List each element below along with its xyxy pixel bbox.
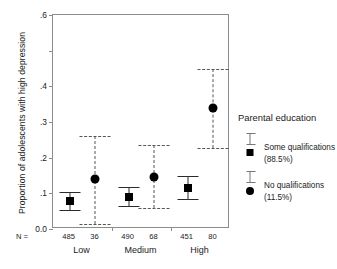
legend-item-no-qualifications[interactable]: No qualifications (11.5%) xyxy=(238,170,337,208)
legend-glyphs-no-qualifications xyxy=(242,170,258,208)
error-bar-icon xyxy=(250,171,251,182)
square-data-marker xyxy=(184,184,192,192)
plot-area: 0.0.1.2.3.4.6 xyxy=(52,14,229,228)
square-data-marker xyxy=(125,193,133,201)
legend-label-no-qualifications: No qualifications (11.5%) xyxy=(264,180,324,204)
circle-marker-icon xyxy=(246,187,254,195)
error-bar-cap-lower xyxy=(139,208,170,209)
category-label: High xyxy=(190,245,209,255)
legend-label-some-qualifications: Some qualifications (88.5%) xyxy=(264,142,335,166)
n-value: 451 xyxy=(180,232,193,241)
error-bar-cap-upper xyxy=(139,145,170,146)
category-label: Low xyxy=(73,245,90,255)
n-value: 485 xyxy=(62,232,75,241)
error-bar-cap-upper xyxy=(198,69,229,70)
error-bar-cap-lower xyxy=(80,224,111,225)
circle-data-marker xyxy=(91,175,100,184)
legend: Parental education Some qualifications (… xyxy=(238,112,337,208)
square-data-marker xyxy=(66,197,74,205)
data-point-group xyxy=(75,15,115,229)
error-bar-cap-lower xyxy=(198,148,229,149)
data-point-group xyxy=(134,15,174,229)
n-value: 36 xyxy=(90,232,98,241)
data-point-group xyxy=(193,15,233,229)
legend-series-percent: (88.5%) xyxy=(264,154,335,166)
y-tick-label: .2 xyxy=(40,153,47,163)
n-value: 80 xyxy=(208,232,216,241)
error-bar-cap-upper xyxy=(80,136,111,137)
circle-data-marker xyxy=(209,104,218,113)
legend-series-name: No qualifications xyxy=(264,181,324,190)
legend-item-some-qualifications[interactable]: Some qualifications (88.5%) xyxy=(238,132,337,170)
n-value: 68 xyxy=(149,232,157,241)
legend-title: Parental education xyxy=(238,112,337,123)
y-axis-title: Proportion of adolescents with high depr… xyxy=(17,15,27,231)
n-row-label: N = xyxy=(16,232,28,241)
legend-series-name: Some qualifications xyxy=(264,143,335,152)
y-tick-label: .4 xyxy=(40,81,47,91)
square-marker-icon xyxy=(247,149,254,156)
y-tick-label: .3 xyxy=(40,117,47,127)
legend-series-percent: (11.5%) xyxy=(264,192,324,204)
circle-data-marker xyxy=(150,172,159,181)
legend-glyphs-some-qualifications xyxy=(242,132,258,170)
y-tick-label: .1 xyxy=(40,188,47,198)
n-value: 490 xyxy=(121,232,134,241)
y-tick-label: 0.0 xyxy=(35,224,47,234)
y-tick-label: .6 xyxy=(40,10,47,20)
y-tick xyxy=(49,229,53,230)
error-bar-icon xyxy=(250,133,251,144)
category-label: Medium xyxy=(124,245,156,255)
